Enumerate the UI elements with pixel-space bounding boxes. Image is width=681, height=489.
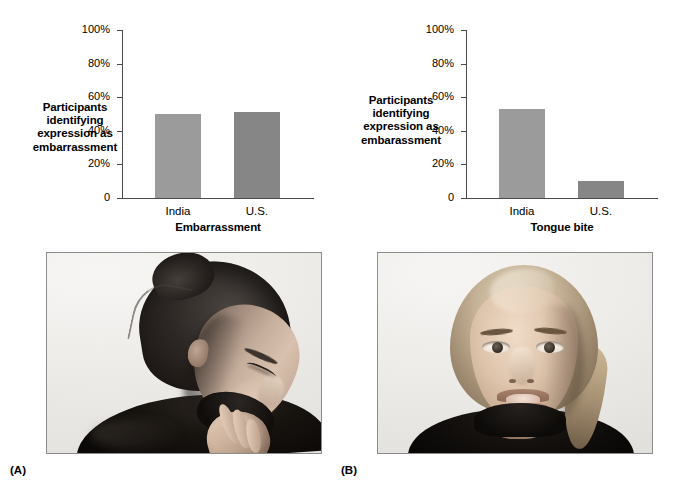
chart-b-ytick-40: 40% bbox=[461, 131, 466, 132]
chart-b-y-axis-label-line-2: identifying bbox=[346, 107, 456, 120]
chart-b-bar-india bbox=[499, 109, 545, 198]
chart-b-ytick-label-60: 60% bbox=[432, 90, 454, 103]
chart-a-bar-us bbox=[234, 112, 280, 198]
photo-b-iris-left bbox=[492, 342, 503, 353]
chart-b-y-axis bbox=[466, 30, 467, 198]
chart-b-ytick-20: 20% bbox=[461, 164, 466, 165]
photo-panel-a: (A) bbox=[46, 252, 322, 454]
chart-a-y-axis bbox=[122, 30, 123, 198]
chart-b-ytick-0: 0 bbox=[461, 198, 466, 199]
photo-b-nostril-left bbox=[509, 379, 516, 383]
figure-root: Participants identifying expression as e… bbox=[0, 0, 681, 489]
chart-b-ytick-label-80: 80% bbox=[432, 57, 454, 70]
chart-a-y-axis-label-line-4: embarrassment bbox=[16, 141, 134, 154]
chart-a-ytick-100: 100% bbox=[117, 30, 122, 31]
chart-a-category-label-india: India bbox=[138, 204, 218, 218]
chart-a-bar-india bbox=[155, 114, 201, 198]
chart-b-title: Tongue bite bbox=[466, 221, 658, 233]
chart-a-y-axis-label-line-3: expression as bbox=[16, 127, 134, 140]
chart-a-ytick-60: 60% bbox=[117, 97, 122, 98]
photo-b-hair-part bbox=[490, 269, 554, 313]
chart-b-category-label-india: India bbox=[482, 204, 562, 218]
chart-a-ytick-label-100: 100% bbox=[82, 23, 110, 36]
chart-a-y-axis-label-line-1: Participants bbox=[16, 101, 134, 114]
photo-a-caption: (A) bbox=[10, 464, 26, 476]
chart-b-ytick-label-0: 0 bbox=[448, 191, 454, 204]
chart-a-ytick-label-80: 80% bbox=[88, 57, 110, 70]
chart-a-plot-area: 100% 80% 60% 40% 20% 0 India U.S. Embarr… bbox=[122, 30, 314, 198]
chart-a-title: Embarrassment bbox=[122, 221, 314, 233]
chart-b-ytick-label-20: 20% bbox=[432, 157, 454, 170]
chart-a-ytick-label-40: 40% bbox=[88, 124, 110, 137]
chart-b-ytick-60: 60% bbox=[461, 97, 466, 98]
photo-b-iris-right bbox=[544, 342, 555, 353]
photo-b-nostril-right bbox=[527, 379, 534, 383]
chart-b-ytick-80: 80% bbox=[461, 64, 466, 65]
photo-b-caption: (B) bbox=[341, 464, 357, 476]
chart-a-ytick-0: 0 bbox=[117, 198, 122, 199]
chart-a-ytick-label-60: 60% bbox=[88, 90, 110, 103]
photo-a-frame bbox=[46, 252, 322, 454]
chart-a-ytick-label-0: 0 bbox=[104, 191, 110, 204]
chart-panel-tongue-bite: Participants identifying expression as e… bbox=[340, 0, 681, 245]
chart-a-category-label-us: U.S. bbox=[217, 204, 297, 218]
chart-b-bar-us bbox=[578, 181, 624, 198]
chart-a-x-axis bbox=[122, 198, 314, 199]
photo-b-frame bbox=[377, 252, 653, 454]
photo-a-shoulder-highlight bbox=[91, 419, 181, 449]
photo-b-face-shadow bbox=[544, 305, 584, 415]
chart-a-ytick-label-20: 20% bbox=[88, 157, 110, 170]
chart-a-ytick-80: 80% bbox=[117, 64, 122, 65]
chart-a-ytick-20: 20% bbox=[117, 164, 122, 165]
chart-panel-embarrassment: Participants identifying expression as e… bbox=[0, 0, 340, 245]
chart-a-y-axis-label: Participants identifying expression as e… bbox=[16, 101, 134, 154]
chart-a-ytick-40: 40% bbox=[117, 131, 122, 132]
photo-panel-b: (B) bbox=[377, 252, 653, 454]
chart-b-ytick-label-100: 100% bbox=[426, 23, 454, 36]
chart-b-ytick-100: 100% bbox=[461, 30, 466, 31]
chart-b-ytick-label-40: 40% bbox=[432, 124, 454, 137]
chart-b-x-axis bbox=[466, 198, 658, 199]
chart-b-plot-area: 100% 80% 60% 40% 20% 0 India U.S. Tongue… bbox=[466, 30, 658, 198]
chart-b-category-label-us: U.S. bbox=[561, 204, 641, 218]
chart-a-y-axis-label-line-2: identifying bbox=[16, 114, 134, 127]
photo-b-turtleneck-collar bbox=[474, 403, 566, 437]
